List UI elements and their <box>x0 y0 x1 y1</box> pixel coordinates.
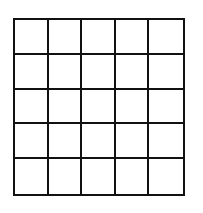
grid-cell <box>49 124 83 159</box>
grid-cell <box>82 20 116 55</box>
grid-cell <box>116 124 150 159</box>
grid-cell <box>116 90 150 125</box>
grid-cell <box>49 90 83 125</box>
grid-cell <box>82 55 116 90</box>
grid-cell <box>15 20 49 55</box>
grid-cell <box>15 159 49 194</box>
grid-cell <box>49 20 83 55</box>
grid-cell <box>116 159 150 194</box>
grid-cell <box>149 55 183 90</box>
grid-cell <box>49 55 83 90</box>
grid-cell <box>149 124 183 159</box>
grid-cell <box>82 90 116 125</box>
grid-cell <box>15 90 49 125</box>
grid-cell <box>116 20 150 55</box>
grid-cell <box>149 90 183 125</box>
grid-cell <box>15 124 49 159</box>
grid-cell <box>15 55 49 90</box>
grid-cell <box>116 55 150 90</box>
grid-cell <box>149 20 183 55</box>
grid-5x5 <box>13 18 185 196</box>
grid-cell <box>82 159 116 194</box>
grid-cell <box>82 124 116 159</box>
grid-cell <box>49 159 83 194</box>
grid-cell <box>149 159 183 194</box>
